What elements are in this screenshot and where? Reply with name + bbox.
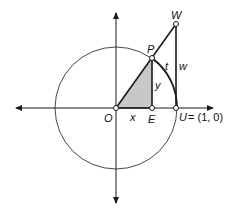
label-U: U — [179, 111, 187, 123]
point-O — [114, 106, 119, 111]
label-P: P — [147, 43, 155, 55]
label-x: x — [129, 111, 136, 123]
label-y: y — [154, 79, 162, 91]
point-E — [150, 106, 155, 111]
label-W: W — [171, 9, 183, 21]
label-E: E — [148, 113, 156, 125]
point-W — [174, 22, 179, 27]
label-t: t — [165, 60, 169, 72]
point-U — [174, 106, 179, 111]
label-w: w — [179, 60, 188, 72]
point-P — [150, 56, 155, 61]
label-O: O — [104, 112, 113, 124]
unit-circle-diagram: O x E U = (1, 0) P W y t w — [0, 0, 237, 208]
label-U-coord: = (1, 0) — [188, 111, 223, 123]
